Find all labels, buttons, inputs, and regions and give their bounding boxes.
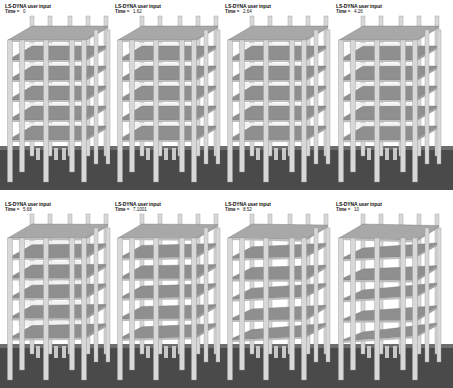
building-render xyxy=(220,14,332,190)
building-render xyxy=(0,14,112,190)
building-render xyxy=(331,14,453,190)
simulation-frame-grid: LS-DYNA user input Time =0 LS-DYNA user … xyxy=(0,0,453,388)
building-render xyxy=(331,212,453,388)
frame-6: LS-DYNA user input Time =7.1001 xyxy=(110,198,220,388)
frame-5: LS-DYNA user input Time =5.68 xyxy=(0,198,110,388)
building-render xyxy=(110,212,222,388)
frame-1: LS-DYNA user input Time =0 xyxy=(0,0,110,190)
frame-2: LS-DYNA user input Time =1.62 xyxy=(110,0,220,190)
building-render xyxy=(110,14,222,190)
frame-4: LS-DYNA user input Time =4.26 xyxy=(331,0,441,190)
building-render xyxy=(0,212,112,388)
frame-7: LS-DYNA user input Time =8.52 xyxy=(220,198,330,388)
building-render xyxy=(220,212,332,388)
frame-3: LS-DYNA user input Time =2.64 xyxy=(220,0,330,190)
frame-8: LS-DYNA user input Time =10 xyxy=(331,198,441,388)
